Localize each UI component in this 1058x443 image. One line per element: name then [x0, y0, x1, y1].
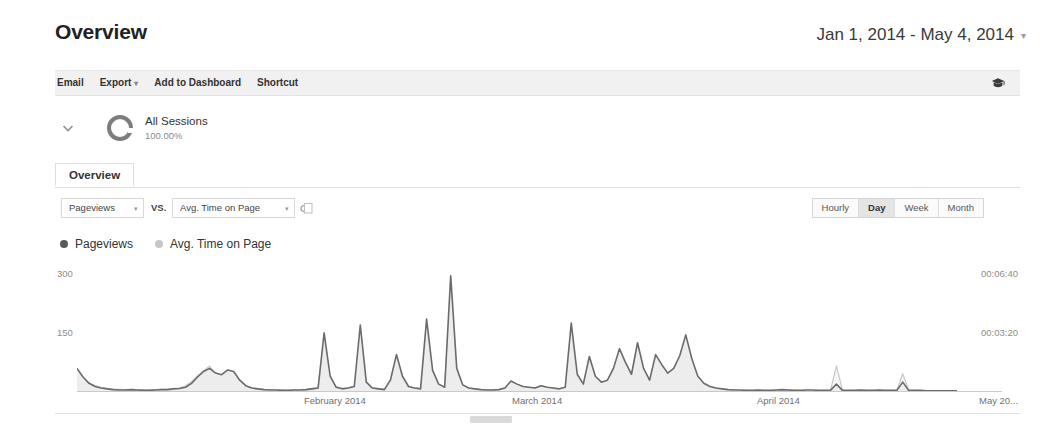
granularity-day-label: Day	[868, 202, 885, 213]
date-range-label: Jan 1, 2014 - May 4, 2014	[816, 25, 1014, 44]
legend-item-avg-time-on-page[interactable]: Avg. Time on Page	[155, 237, 271, 251]
email-button[interactable]: Email	[57, 71, 84, 95]
vs-label: VS.	[151, 198, 166, 218]
horizontal-scrollbar-thumb[interactable]	[470, 416, 512, 423]
x-axis-tick-march: March 2014	[512, 395, 562, 406]
date-range-picker[interactable]: Jan 1, 2014 - May 4, 2014▾	[816, 25, 1026, 45]
x-axis-tick-february: February 2014	[304, 395, 366, 406]
chevron-down-icon: ▾	[134, 199, 138, 218]
chevron-down-icon: ▾	[1021, 30, 1026, 41]
x-axis: February 2014 March 2014 April 2014 May …	[77, 391, 1002, 414]
legend-item-pageviews[interactable]: Pageviews	[60, 237, 133, 251]
y-axis-right-tick-upper: 00:06:40	[981, 268, 1018, 279]
segment-percent: 100.00%	[145, 129, 208, 143]
tab-overview[interactable]: Overview	[55, 163, 134, 186]
tab-overview-label: Overview	[69, 169, 120, 181]
action-toolbar-items: Email Export▾ Add to Dashboard Shortcut	[55, 71, 298, 95]
chevron-down-icon[interactable]	[59, 119, 77, 137]
segment-donut-icon	[107, 115, 133, 141]
y-axis-right-tick-lower: 00:03:20	[981, 327, 1018, 338]
page-header: Overview Jan 1, 2014 - May 4, 2014▾	[0, 20, 1058, 62]
tab-strip: Overview	[55, 163, 1020, 188]
primary-metric-label: Pageviews	[69, 202, 115, 213]
action-toolbar: Email Export▾ Add to Dashboard Shortcut	[55, 70, 1020, 96]
graduation-cap-icon[interactable]	[990, 75, 1006, 91]
export-button-label: Export	[100, 77, 132, 88]
granularity-month-label: Month	[948, 202, 974, 213]
legend-label-avg-time-on-page: Avg. Time on Page	[170, 237, 271, 251]
bottom-divider	[55, 413, 1020, 414]
granularity-hourly[interactable]: Hourly	[813, 199, 859, 217]
x-axis-tick-april: April 2014	[757, 395, 800, 406]
email-button-label: Email	[57, 77, 84, 88]
chevron-down-icon: ▾	[285, 199, 289, 218]
shortcut-button-label: Shortcut	[257, 77, 298, 88]
primary-metric-select[interactable]: Pageviews ▾	[61, 198, 144, 218]
metric-selector-row: Pageviews ▾ VS. Avg. Time on Page ▾ Hour…	[55, 198, 1020, 222]
select-metric-icon[interactable]	[300, 201, 313, 214]
chart-plot-area[interactable]	[77, 262, 957, 392]
timeseries-chart: 300 150 00:06:40 00:03:20 February 2014 …	[55, 262, 1020, 412]
legend-label-pageviews: Pageviews	[75, 237, 133, 251]
analytics-overview-page: Overview Jan 1, 2014 - May 4, 2014▾ Emai…	[0, 0, 1058, 443]
granularity-week-label: Week	[904, 202, 928, 213]
chevron-down-icon: ▾	[134, 79, 138, 88]
series-area-pageviews	[77, 276, 957, 392]
export-button[interactable]: Export▾	[100, 71, 139, 96]
secondary-metric-select[interactable]: Avg. Time on Page ▾	[172, 198, 295, 218]
shortcut-button[interactable]: Shortcut	[257, 71, 298, 95]
add-to-dashboard-label: Add to Dashboard	[154, 77, 241, 88]
granularity-toggle-group: Hourly Day Week Month	[812, 198, 984, 218]
y-axis-left-tick-300: 300	[57, 268, 73, 279]
segment-name: All Sessions	[145, 114, 208, 128]
x-axis-tick-may: May 20...	[979, 395, 1018, 406]
chart-legend: Pageviews Avg. Time on Page	[60, 237, 271, 251]
legend-color-swatch	[155, 240, 163, 248]
granularity-month[interactable]: Month	[939, 199, 983, 217]
segment-info[interactable]: All Sessions 100.00%	[145, 114, 208, 143]
secondary-metric-label: Avg. Time on Page	[180, 202, 260, 213]
y-axis-left-tick-150: 150	[57, 327, 73, 338]
granularity-week[interactable]: Week	[895, 199, 938, 217]
add-to-dashboard-button[interactable]: Add to Dashboard	[154, 71, 241, 95]
granularity-hourly-label: Hourly	[822, 202, 849, 213]
segment-bar: All Sessions 100.00%	[55, 105, 1020, 151]
granularity-day[interactable]: Day	[859, 199, 895, 217]
page-title: Overview	[55, 20, 147, 44]
legend-color-swatch	[60, 240, 68, 248]
